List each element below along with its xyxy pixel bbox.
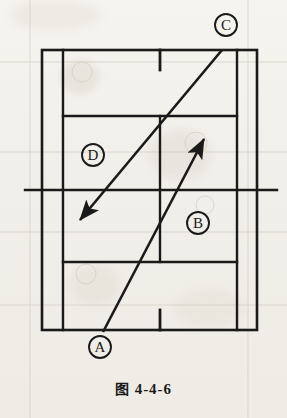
marker-b: B bbox=[187, 212, 209, 234]
figure-caption: 图 4-4-6 bbox=[0, 378, 287, 398]
marker-a-label: A bbox=[95, 339, 106, 355]
arrow-a-to-b bbox=[103, 139, 204, 332]
tennis-court-figure: A B C D bbox=[0, 0, 287, 418]
caption-number: 4-4-6 bbox=[135, 381, 173, 397]
marker-d: D bbox=[82, 144, 104, 166]
arrow-c-to-d bbox=[80, 50, 222, 220]
page-background: A B C D 图 4-4-6 bbox=[0, 0, 287, 418]
marker-c: C bbox=[215, 14, 237, 36]
caption-prefix: 图 bbox=[115, 381, 130, 397]
marker-c-label: C bbox=[221, 17, 231, 33]
marker-d-label: D bbox=[88, 147, 99, 163]
marker-a: A bbox=[89, 336, 111, 358]
marker-b-label: B bbox=[193, 215, 203, 231]
